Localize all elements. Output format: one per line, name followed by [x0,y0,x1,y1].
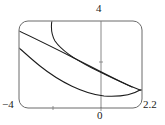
y-max-label: 4 [96,3,102,14]
calculator-graph-viewport: 4 −4 0 2.2 [0,0,165,125]
curve-lower-branch [19,48,140,96]
curve-upper-branch [51,20,140,90]
x-max-label: 2.2 [143,99,157,110]
x-min-label: −4 [2,99,14,110]
origin-label: 0 [97,110,103,121]
plot-canvas [0,0,165,125]
curve-left-sweep [19,31,132,87]
